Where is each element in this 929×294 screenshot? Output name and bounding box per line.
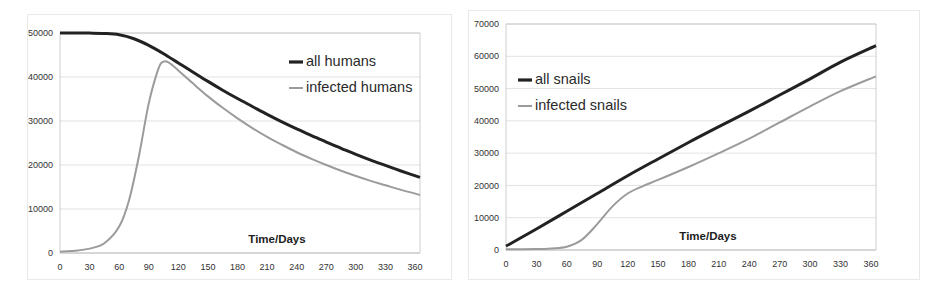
legend-label-all-snails: all snails	[535, 71, 591, 87]
x-axis-tick-label: 360	[408, 262, 423, 272]
y-axis-tick-label: 40000	[28, 72, 53, 82]
y-axis-tick-label: 0	[48, 248, 53, 258]
x-axis-tick-label: 360	[863, 259, 878, 269]
x-axis-tick-label: 0	[503, 259, 508, 269]
x-axis-tick-label: 180	[681, 259, 696, 269]
x-axis-tick-label: 0	[57, 262, 62, 272]
x-axis-tick-label: 90	[144, 262, 154, 272]
x-axis-tick-label: 210	[711, 259, 726, 269]
x-axis-tick-label: 60	[114, 262, 124, 272]
y-axis-tick-label: 0	[494, 245, 499, 255]
x-axis-tick-label: 300	[348, 262, 363, 272]
x-axis-title: Time/Days	[679, 230, 736, 242]
x-axis-tick-label: 240	[742, 259, 757, 269]
x-axis-tick-label: 330	[378, 262, 393, 272]
x-axis-tick-label: 270	[319, 262, 334, 272]
y-axis-tick-label: 30000	[474, 148, 499, 158]
x-axis-tick-label: 330	[833, 259, 848, 269]
x-axis-tick-label: 30	[531, 259, 541, 269]
y-axis-tick-label: 50000	[28, 28, 53, 38]
humans-chart-svg: 0100002000030000400005000003060901201501…	[0, 0, 462, 294]
y-axis-tick-label: 40000	[474, 116, 499, 126]
x-axis-tick-label: 30	[85, 262, 95, 272]
y-axis-tick-label: 20000	[474, 181, 499, 191]
x-axis-tick-label: 150	[651, 259, 666, 269]
x-axis-tick-label: 90	[592, 259, 602, 269]
y-axis-tick-label: 70000	[474, 19, 499, 29]
x-axis-tick-label: 240	[289, 262, 304, 272]
snails-chart-svg: 0100002000030000400005000060000700000306…	[462, 0, 929, 294]
x-axis-tick-label: 270	[772, 259, 787, 269]
x-axis-tick-label: 60	[562, 259, 572, 269]
legend-label-all-humans: all humans	[306, 53, 376, 69]
y-axis-tick-label: 20000	[28, 160, 53, 170]
chart-panel-snails: 0100002000030000400005000060000700000306…	[462, 0, 929, 294]
y-axis-tick-label: 60000	[474, 51, 499, 61]
x-axis-tick-label: 180	[230, 262, 245, 272]
legend-label-infected-humans: infected humans	[306, 79, 412, 95]
x-axis-tick-label: 120	[171, 262, 186, 272]
x-axis-tick-label: 300	[803, 259, 818, 269]
y-axis-tick-label: 30000	[28, 116, 53, 126]
x-axis-title: Time/Days	[248, 233, 305, 245]
y-axis-tick-label: 10000	[28, 204, 53, 214]
y-axis-tick-label: 10000	[474, 213, 499, 223]
x-axis-tick-label: 120	[620, 259, 635, 269]
legend-label-infected-snails: infected snails	[535, 97, 627, 113]
x-axis-tick-label: 150	[200, 262, 215, 272]
chart-panel-humans: 0100002000030000400005000003060901201501…	[0, 0, 462, 294]
x-axis-tick-label: 210	[260, 262, 275, 272]
y-axis-tick-label: 50000	[474, 84, 499, 94]
figure-container: 0100002000030000400005000003060901201501…	[0, 0, 929, 294]
